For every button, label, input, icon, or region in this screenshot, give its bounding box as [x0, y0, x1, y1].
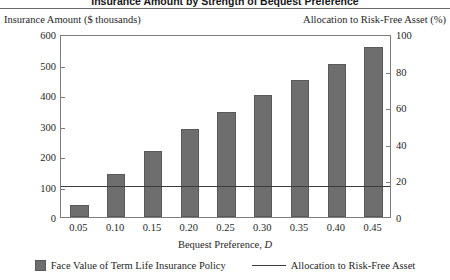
legend-item-line[interactable]: Allocation to Risk-Free Asset: [252, 260, 416, 271]
right-tick-label: 60: [396, 103, 407, 114]
left-axis-caption: Insurance Amount ($ thousands): [4, 14, 141, 25]
right-tick-label: 0: [396, 213, 401, 224]
left-tick-label: 200: [40, 152, 56, 163]
risk-free-allocation-line: [61, 186, 390, 187]
x-axis-title-symbol: D: [265, 239, 273, 250]
chart-title: Insurance Amount by Strength of Bequest …: [0, 0, 450, 7]
plot-area: [60, 35, 391, 218]
x-tick-label: 0.30: [253, 222, 271, 233]
bar: [70, 205, 88, 217]
left-tick-label: 400: [40, 91, 56, 102]
bar: [181, 129, 199, 217]
bar: [254, 95, 272, 217]
legend-label-bar: Face Value of Term Life Insurance Policy: [51, 260, 226, 271]
x-tick-label: 0.15: [143, 222, 161, 233]
legend-label-line: Allocation to Risk-Free Asset: [291, 260, 416, 271]
chart-legend: Face Value of Term Life Insurance Policy…: [0, 260, 450, 271]
bar-series: [61, 36, 390, 217]
x-tick-label: 0.45: [363, 222, 381, 233]
x-axis-title: Bequest Preference, D: [0, 239, 450, 250]
x-tick-label: 0.05: [69, 222, 87, 233]
x-tick-label: 0.35: [290, 222, 308, 233]
left-tick-label: 300: [40, 121, 56, 132]
x-axis-title-text: Bequest Preference,: [178, 239, 262, 250]
chart-figure: Insurance Amount by Strength of Bequest …: [0, 0, 450, 280]
left-tick-label: 100: [40, 182, 56, 193]
legend-swatch-icon: [35, 260, 46, 271]
left-tick-label: 500: [40, 60, 56, 71]
bar: [328, 64, 346, 217]
bar: [364, 47, 382, 217]
legend-line-icon: [252, 265, 286, 266]
bar: [291, 80, 309, 217]
bar: [144, 151, 162, 217]
right-tick-label: 20: [396, 176, 407, 187]
title-divider: [0, 8, 450, 9]
bar: [217, 112, 235, 217]
right-tick-label: 100: [396, 30, 412, 41]
left-tick-label: 600: [40, 30, 56, 41]
x-tick-label: 0.25: [216, 222, 234, 233]
left-tick-label: 0: [51, 213, 56, 224]
right-tick-label: 80: [396, 66, 407, 77]
x-tick-label: 0.20: [180, 222, 198, 233]
x-tick-label: 0.40: [327, 222, 345, 233]
bar: [107, 174, 125, 217]
right-tick-label: 40: [396, 139, 407, 150]
right-axis-caption: Allocation to Risk-Free Asset (%): [303, 14, 446, 25]
legend-item-bar[interactable]: Face Value of Term Life Insurance Policy: [35, 260, 226, 271]
x-tick-label: 0.10: [106, 222, 124, 233]
